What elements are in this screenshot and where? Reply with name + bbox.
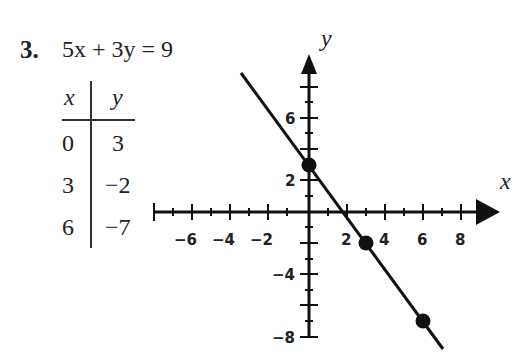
x-axis-label: x [499, 168, 511, 194]
y-tick-label: 6 [285, 110, 295, 128]
y-tick-label: −8 [272, 329, 295, 347]
y-axis-label: y [319, 25, 332, 51]
y-axis [300, 54, 318, 338]
x-axis [154, 199, 500, 225]
x-tick-label: −6 [174, 231, 197, 249]
point-3-neg2 [359, 236, 374, 251]
y-axis-arrow-icon [301, 54, 317, 74]
point-0-3 [302, 158, 317, 173]
graph: −6 −4 −2 2 4 6 8 6 2 −4 −8 y x [0, 0, 524, 364]
x-tick-label: −4 [212, 231, 235, 249]
point-6-neg7 [416, 314, 431, 329]
x-tick-label: −2 [250, 231, 273, 249]
y-tick-label: −4 [272, 266, 295, 284]
y-tick-label: 2 [285, 172, 295, 190]
x-tick-label: 6 [417, 231, 427, 249]
x-tick-label: 8 [455, 231, 465, 249]
x-axis-arrow-icon [476, 199, 500, 225]
x-tick-label: 2 [341, 231, 351, 249]
x-tick-label: 4 [379, 231, 389, 249]
